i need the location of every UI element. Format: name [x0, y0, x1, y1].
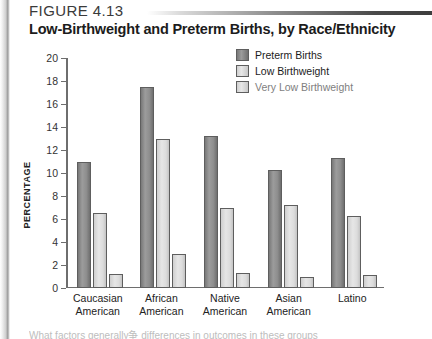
- y-axis-tick-label: 0: [52, 283, 58, 294]
- y-axis-tick: [61, 104, 66, 105]
- y-axis-tick-label: 14: [46, 122, 58, 133]
- y-axis-tick-label: 2: [52, 260, 58, 271]
- bar: [347, 216, 361, 288]
- bar: [268, 170, 282, 288]
- x-axis-category-label: Latino: [320, 292, 384, 305]
- y-axis-tick-label: 6: [52, 214, 58, 225]
- bar: [331, 158, 345, 288]
- bar-group: [268, 58, 314, 288]
- y-axis-tick: [61, 265, 66, 266]
- y-axis-tick: [61, 81, 66, 82]
- chart-container: PERCENTAGE Preterm Births Low Birthweigh…: [0, 40, 403, 339]
- bar: [220, 208, 234, 289]
- y-axis-label: PERCENTAGE: [22, 150, 32, 240]
- bar: [140, 87, 154, 288]
- bar: [363, 275, 377, 288]
- bar-group: [331, 58, 377, 288]
- bar: [109, 274, 123, 288]
- y-axis-tick-label: 16: [46, 99, 58, 110]
- y-axis-tick-label: 10: [46, 168, 58, 179]
- bar: [172, 254, 186, 289]
- x-axis-category-label: NativeAmerican: [193, 292, 257, 317]
- header-rule: [147, 11, 432, 15]
- x-axis-category-label: AsianAmerican: [257, 292, 321, 317]
- y-axis-tick: [61, 219, 66, 220]
- bar: [300, 277, 314, 289]
- plot-area: 02468101214161820: [66, 58, 384, 288]
- x-axis-category-label: AfricanAmerican: [130, 292, 194, 317]
- y-axis-tick-label: 20: [46, 53, 58, 64]
- bar: [156, 139, 170, 289]
- figure-title: Low-Birthweight and Preterm Births, by R…: [29, 21, 403, 38]
- bar-group: [140, 58, 186, 288]
- figure-footnote: What factors generally争 differences in o…: [29, 330, 403, 339]
- x-axis-category-label: CaucasianAmerican: [66, 292, 130, 317]
- y-axis-tick: [61, 150, 66, 151]
- bar: [93, 213, 107, 288]
- y-axis-tick-label: 12: [46, 145, 58, 156]
- bar-group: [204, 58, 250, 288]
- y-axis-tick: [61, 288, 66, 289]
- bar: [77, 162, 91, 289]
- y-axis-tick-label: 18: [46, 76, 58, 87]
- x-axis-category-labels: CaucasianAmericanAfricanAmericanNativeAm…: [66, 292, 384, 322]
- y-axis-tick-label: 4: [52, 237, 58, 248]
- y-axis-tick-label: 8: [52, 191, 58, 202]
- y-axis-tick: [61, 173, 66, 174]
- y-axis-tick: [61, 196, 66, 197]
- y-axis-tick: [61, 58, 66, 59]
- bar: [236, 273, 250, 288]
- y-axis-tick: [61, 127, 66, 128]
- y-axis-line: [66, 58, 68, 288]
- bar-group: [77, 58, 123, 288]
- bar: [284, 205, 298, 288]
- bar: [204, 136, 218, 288]
- y-axis-tick: [61, 242, 66, 243]
- figure-header: FIGURE 4.13: [29, 2, 403, 20]
